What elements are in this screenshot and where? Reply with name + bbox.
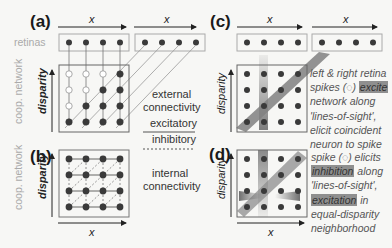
- left-retina-node: [83, 40, 89, 46]
- inhibition-highlight: inhibition: [311, 165, 354, 177]
- panel-b: (b) disparity x internal connectivity: [30, 147, 201, 238]
- network-node: [295, 87, 301, 93]
- line-of-sight-diagonal: [99, 45, 179, 128]
- network-node: [100, 156, 107, 163]
- panel-d-line-6: neighborhood: [311, 221, 383, 235]
- coop-network-label-top: coop. network: [12, 58, 24, 124]
- x-axis-label-c-left: x: [266, 13, 273, 25]
- excitatory-label: excitatory: [150, 117, 198, 129]
- right-retina-node: [353, 40, 359, 46]
- disparity-axis-label-a: disparity: [36, 67, 48, 114]
- network-node-active: [100, 103, 106, 109]
- network-node: [261, 172, 267, 178]
- network-node: [244, 204, 250, 210]
- network-node: [261, 103, 267, 109]
- left-retina-node: [66, 40, 72, 46]
- network-node-inactive: [66, 87, 72, 93]
- network-node-active: [66, 119, 72, 125]
- network-node: [244, 156, 250, 162]
- network-node: [261, 71, 267, 77]
- panel-c-line-2: spikes (◌) excite: [310, 80, 388, 94]
- right-retina-node: [336, 40, 342, 46]
- external-connectivity-label-2: connectivity: [143, 101, 201, 113]
- disparity-axis-label-d: disparity: [215, 157, 227, 199]
- left-retina-node: [295, 40, 301, 46]
- panel-d-line-3: 'lines-of-sight',: [311, 178, 383, 192]
- network-node: [295, 156, 301, 162]
- network-node: [117, 156, 124, 163]
- panel-d-line-5: equal-disparity: [311, 207, 383, 221]
- network-node: [261, 156, 267, 162]
- right-retina-node: [193, 40, 199, 46]
- network-node: [66, 188, 73, 195]
- disparity-axis-label-c: disparity: [215, 72, 227, 114]
- network-node: [244, 103, 250, 109]
- network-node-active: [100, 119, 106, 125]
- network-node-active: [117, 71, 123, 77]
- panel-a: (a) x x disparity external connectivity …: [30, 12, 205, 149]
- network-node: [83, 156, 90, 163]
- x-axis-label-d: x: [267, 226, 274, 238]
- network-node: [66, 172, 73, 179]
- inhibitory-connection-diagonal: [69, 159, 120, 207]
- network-node: [278, 71, 284, 77]
- network-node: [244, 188, 250, 194]
- left-retina-node: [100, 40, 106, 46]
- network-node: [278, 103, 284, 109]
- disparity-axis-label-b: disparity: [36, 152, 48, 199]
- network-node: [278, 204, 284, 210]
- network-node: [261, 119, 267, 125]
- panel-d-description: spike (◌) elicits inhibition along 'line…: [311, 150, 383, 235]
- excite-highlight: excite: [359, 81, 388, 93]
- line-of-sight-diagonal: [82, 45, 162, 128]
- panel-c-line-2-mid: ): [352, 81, 358, 93]
- panel-c-line-4: 'lines-of-sight',: [310, 109, 388, 123]
- network-node: [66, 204, 73, 211]
- panel-d-line-1-post: ) elicits: [348, 151, 381, 163]
- network-node-inactive: [66, 103, 72, 109]
- network-node: [295, 119, 301, 125]
- right-retina-node: [370, 40, 376, 46]
- panel-d-line-1-pre: spike (: [311, 151, 342, 163]
- panel-d-line-2-post: along: [354, 165, 383, 177]
- coop-network-label-bottom: coop. network: [12, 144, 24, 210]
- excitation-highlight: excitation: [311, 194, 357, 206]
- network-node-inactive: [100, 71, 106, 77]
- panel-d-line-4-post: in: [357, 194, 368, 206]
- line-of-sight-diagonal: [65, 45, 145, 128]
- right-retina-node: [176, 40, 182, 46]
- network-node: [117, 172, 124, 179]
- internal-connectivity-label-1: internal: [152, 167, 188, 179]
- network-node: [244, 87, 250, 93]
- network-node: [83, 172, 90, 179]
- x-axis-label-c-right: x: [342, 13, 349, 25]
- network-node-active: [117, 119, 123, 125]
- network-node: [66, 156, 73, 163]
- inhibitory-connection-diagonal: [69, 159, 86, 175]
- network-node: [244, 172, 250, 178]
- panel-a-label: (a): [30, 12, 51, 31]
- panel-c-line-3: network along: [310, 94, 388, 108]
- network-node: [278, 156, 284, 162]
- network-node-inactive: [83, 71, 89, 77]
- right-retina-node: [159, 40, 165, 46]
- panel-c-line-5: elicit coincident: [310, 123, 388, 137]
- network-node: [295, 71, 301, 77]
- network-node: [278, 172, 284, 178]
- network-node: [261, 204, 267, 210]
- right-retina-node: [319, 40, 325, 46]
- left-retina-node: [261, 40, 267, 46]
- spiking-neuron: [261, 188, 267, 194]
- inhibitory-label: inhibitory: [152, 133, 197, 145]
- network-node: [278, 87, 284, 93]
- inhibitory-connection-diagonal: [103, 191, 120, 207]
- x-axis-label-b: x: [88, 226, 95, 238]
- network-node: [100, 172, 107, 179]
- network-node: [117, 204, 124, 211]
- network-node: [295, 172, 301, 178]
- network-node-inactive: [66, 71, 72, 77]
- network-node-active: [117, 103, 123, 109]
- panel-d-line-4: excitation in: [311, 193, 383, 207]
- x-axis-label-left: x: [88, 13, 95, 25]
- external-connectivity-label-1: external: [152, 88, 191, 100]
